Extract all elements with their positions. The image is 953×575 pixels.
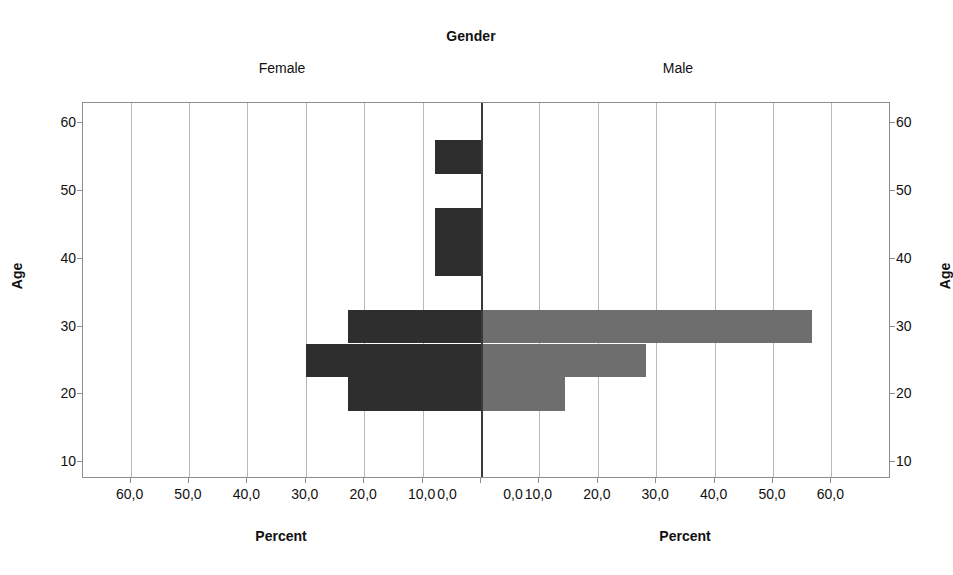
y-axis-title-left: Age <box>9 236 25 316</box>
x-tick-label-left-60-0: 60,0 <box>100 486 160 502</box>
x-axis-title-left: Percent <box>181 528 381 544</box>
x-tick-mark-right <box>597 478 598 483</box>
plot-area <box>82 102 890 478</box>
x-tick-mark-left <box>130 478 131 483</box>
gridline <box>364 103 365 477</box>
y-tick-mark-right <box>890 461 895 462</box>
y-tick-label-left-40: 40 <box>36 251 76 265</box>
y-tick-mark-left <box>77 258 82 259</box>
bar-male-age-25 <box>481 344 646 378</box>
x-tick-mark-left <box>422 478 423 483</box>
x-tick-mark-left <box>246 478 247 483</box>
gridline <box>831 103 832 477</box>
gridline <box>539 103 540 477</box>
y-tick-mark-right <box>890 190 895 191</box>
y-tick-mark-right <box>890 326 895 327</box>
gridline <box>247 103 248 477</box>
x-tick-mark-right <box>830 478 831 483</box>
y-tick-label-left-10: 10 <box>36 454 76 468</box>
x-tick-mark-left <box>188 478 189 483</box>
y-tick-label-left-50: 50 <box>36 183 76 197</box>
gridline <box>656 103 657 477</box>
x-tick-label-left-40-0: 40,0 <box>216 486 276 502</box>
y-tick-mark-left <box>77 393 82 394</box>
y-tick-label-right-20: 20 <box>896 386 936 400</box>
bar-male-age-20 <box>481 377 565 411</box>
gridline <box>598 103 599 477</box>
gridline <box>423 103 424 477</box>
y-tick-label-left-20: 20 <box>36 386 76 400</box>
x-tick-label-right-20-0: 20,0 <box>567 486 627 502</box>
y-axis-title-right: Age <box>937 236 953 316</box>
x-tick-mark-right <box>714 478 715 483</box>
y-tick-label-left-60: 60 <box>36 115 76 129</box>
x-tick-mark-right <box>772 478 773 483</box>
x-tick-label-left-30-0: 30,0 <box>275 486 335 502</box>
y-tick-mark-left <box>77 326 82 327</box>
y-tick-mark-left <box>77 461 82 462</box>
x-tick-label-right-50-0: 50,0 <box>742 486 802 502</box>
y-tick-mark-right <box>890 258 895 259</box>
panel-label-male: Male <box>598 60 758 76</box>
x-tick-label-left-20-0: 20,0 <box>333 486 393 502</box>
x-tick-mark-left <box>363 478 364 483</box>
x-tick-mark-right <box>655 478 656 483</box>
y-tick-label-right-10: 10 <box>896 454 936 468</box>
gridline <box>306 103 307 477</box>
gridline <box>715 103 716 477</box>
y-tick-label-right-30: 30 <box>896 319 936 333</box>
gridline <box>189 103 190 477</box>
bar-female-age-25 <box>306 344 481 378</box>
y-tick-label-right-50: 50 <box>896 183 936 197</box>
y-tick-mark-right <box>890 122 895 123</box>
x-tick-mark-left <box>480 478 481 483</box>
x-tick-label-left-0-0: 0,0 <box>417 486 477 502</box>
y-tick-label-right-40: 40 <box>896 251 936 265</box>
y-tick-label-left-30: 30 <box>36 319 76 333</box>
x-tick-label-right-30-0: 30,0 <box>625 486 685 502</box>
panel-label-female: Female <box>202 60 362 76</box>
x-tick-label-right-40-0: 40,0 <box>684 486 744 502</box>
bar-female-age-45 <box>435 208 481 242</box>
y-tick-mark-left <box>77 122 82 123</box>
chart-title: Gender <box>0 28 942 44</box>
x-tick-label-left-50-0: 50,0 <box>158 486 218 502</box>
bar-female-age-30 <box>348 310 481 344</box>
x-tick-mark-right <box>538 478 539 483</box>
bar-female-age-55 <box>435 140 481 174</box>
bar-female-age-40 <box>435 242 481 276</box>
x-tick-mark-left <box>305 478 306 483</box>
gridline <box>773 103 774 477</box>
bar-female-age-20 <box>348 377 481 411</box>
x-tick-label-right-0-0: 0,0 <box>483 486 543 502</box>
gridline <box>131 103 132 477</box>
x-tick-label-right-60-0: 60,0 <box>800 486 860 502</box>
y-tick-mark-left <box>77 190 82 191</box>
zero-axis-line <box>481 103 483 477</box>
y-tick-mark-right <box>890 393 895 394</box>
y-tick-label-right-60: 60 <box>896 115 936 129</box>
x-axis-title-right: Percent <box>585 528 785 544</box>
bar-male-age-30 <box>481 310 812 344</box>
